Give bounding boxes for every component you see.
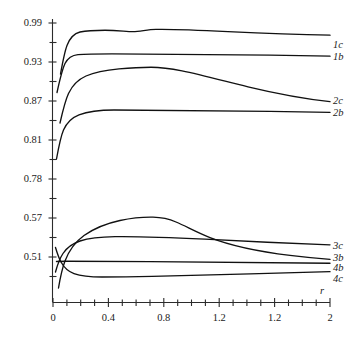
x-tick-marks	[53, 298, 330, 307]
curve-1c	[61, 29, 331, 74]
y-tick-label-6: 0.51	[8, 252, 42, 263]
axes-group	[49, 19, 331, 307]
x-axis-name: r	[320, 286, 324, 297]
y-tick-label-2: 0.87	[8, 96, 42, 107]
curve-2b	[57, 110, 331, 159]
curve-2c	[60, 67, 330, 123]
y-tick-label-0: 0.99	[8, 18, 42, 29]
curves-group	[56, 29, 331, 288]
y-tick-label-5: 0.57	[8, 213, 42, 224]
x-tick-label-2: 0.8	[149, 313, 179, 324]
series-label-2b: 2b	[333, 108, 344, 119]
y-tick-label-4: 0.78	[8, 174, 42, 185]
y-tick-label-1: 0.93	[8, 57, 42, 68]
x-tick-label-0: 0	[38, 313, 68, 324]
curve-4b	[57, 261, 331, 263]
series-label-1b: 1b	[333, 52, 344, 63]
series-label-1c: 1c	[333, 40, 343, 51]
x-tick-label-1: 0.4	[93, 313, 123, 324]
chart-figure: 0.99 0.93 0.87 0.81 0.78 0.57 0.51 0 0.4…	[0, 0, 354, 337]
series-label-4b: 4b	[333, 263, 344, 274]
y-tick-label-3: 0.81	[8, 135, 42, 146]
plot-canvas	[0, 0, 354, 337]
series-label-3c: 3c	[333, 241, 343, 252]
x-tick-label-4: 1.2	[260, 313, 290, 324]
series-label-4c: 4c	[333, 274, 343, 285]
x-tick-label-5: 2	[315, 313, 345, 324]
series-label-2c: 2c	[333, 96, 343, 107]
curve-3b	[56, 237, 331, 272]
x-tick-label-3: 1.2	[204, 313, 234, 324]
